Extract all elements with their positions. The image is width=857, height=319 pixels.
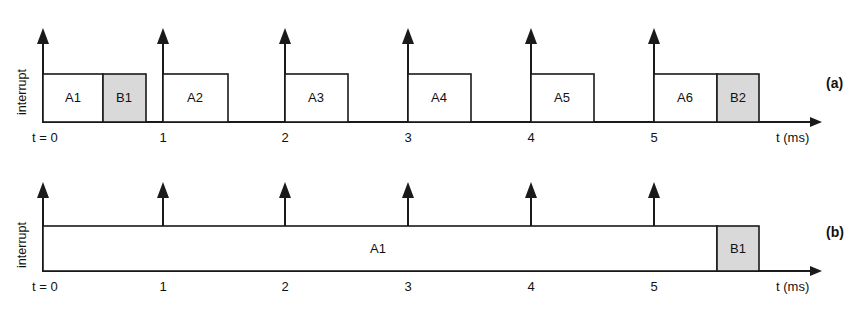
tick-label-t1: 1 bbox=[159, 279, 166, 294]
panel-b-x-axis-arrow-icon bbox=[810, 266, 822, 276]
panel-b-y-axis-label: interrupt bbox=[15, 222, 29, 268]
task-box-a2: A2 bbox=[163, 74, 228, 122]
task-box-label: B1 bbox=[116, 90, 132, 105]
task-box-label: A3 bbox=[308, 90, 324, 105]
task-box-label: A5 bbox=[554, 90, 570, 105]
task-box-a1: A1 bbox=[43, 74, 103, 122]
panel-a-y-axis-label: interrupt bbox=[15, 69, 29, 115]
panel-b-task-boxes: A1 B1 bbox=[43, 226, 759, 271]
task-box-label: A6 bbox=[677, 90, 693, 105]
task-box-label: B1 bbox=[730, 241, 746, 256]
tick-label-t5: 5 bbox=[650, 130, 657, 145]
panel-b-tick-labels: t = 0 1 2 3 4 5 bbox=[32, 279, 658, 294]
task-box-label: A4 bbox=[431, 90, 447, 105]
tick-label-t0: t = 0 bbox=[32, 130, 58, 145]
task-box-a3: A3 bbox=[285, 74, 348, 122]
task-box-label: B2 bbox=[730, 90, 746, 105]
task-box-b1: B1 bbox=[103, 74, 146, 122]
panel-b-x-axis-caption: t (ms) bbox=[776, 279, 809, 294]
tick-label-t3: 3 bbox=[404, 279, 411, 294]
task-box-a4: A4 bbox=[408, 74, 471, 122]
task-box-b2: B2 bbox=[717, 74, 759, 122]
panel-b-tag: (b) bbox=[826, 224, 844, 240]
tick-label-t5: 5 bbox=[650, 279, 657, 294]
panel-a-tick-labels: t = 0 1 2 3 4 5 bbox=[32, 130, 658, 145]
task-box-a6: A6 bbox=[654, 74, 717, 122]
panel-a-tag: (a) bbox=[826, 75, 843, 91]
tick-label-t3: 3 bbox=[404, 130, 411, 145]
tick-label-t0: t = 0 bbox=[32, 279, 58, 294]
task-box-b1: B1 bbox=[717, 226, 759, 271]
tick-label-t4: 4 bbox=[527, 279, 534, 294]
panel-b: interrupt bbox=[15, 182, 844, 294]
tick-label-t2: 2 bbox=[281, 130, 288, 145]
panel-a-x-axis-caption: t (ms) bbox=[776, 130, 809, 145]
timing-diagram-figure: interrupt bbox=[0, 0, 857, 319]
task-box-label: A2 bbox=[187, 90, 203, 105]
tick-label-t4: 4 bbox=[527, 130, 534, 145]
timing-diagram-svg: interrupt bbox=[0, 0, 857, 319]
tick-label-t1: 1 bbox=[159, 130, 166, 145]
task-box-a5: A5 bbox=[531, 74, 594, 122]
task-box-label: A1 bbox=[370, 241, 386, 256]
tick-label-t2: 2 bbox=[281, 279, 288, 294]
panel-a-task-boxes: A1 B1 A2 A3 A4 bbox=[43, 74, 759, 122]
task-box-a1: A1 bbox=[43, 226, 717, 271]
panel-a: interrupt bbox=[15, 28, 843, 145]
panel-a-x-axis-arrow-icon bbox=[810, 117, 822, 127]
task-box-label: A1 bbox=[65, 90, 81, 105]
